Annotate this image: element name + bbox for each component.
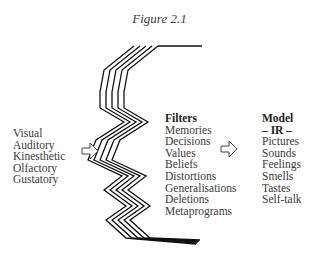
model-heading: Model: [262, 113, 302, 125]
filter-item: Deletions: [165, 194, 237, 206]
sense-item: Visual: [13, 128, 65, 140]
filter-item: Distortions: [165, 171, 237, 183]
senses-list: Visual Auditory Kinesthetic Olfactory Gu…: [13, 128, 65, 186]
filters-list: Filters Memories Decisions Values Belief…: [165, 113, 237, 217]
filters-heading: Filters: [165, 113, 237, 125]
model-list: Model – IR – Pictures Sounds Feelings Sm…: [262, 113, 302, 206]
filter-item: Metaprograms: [165, 206, 237, 218]
model-item: Smells: [262, 171, 302, 183]
model-item: Self-talk: [262, 194, 302, 206]
sense-item: Gustatory: [13, 174, 65, 186]
